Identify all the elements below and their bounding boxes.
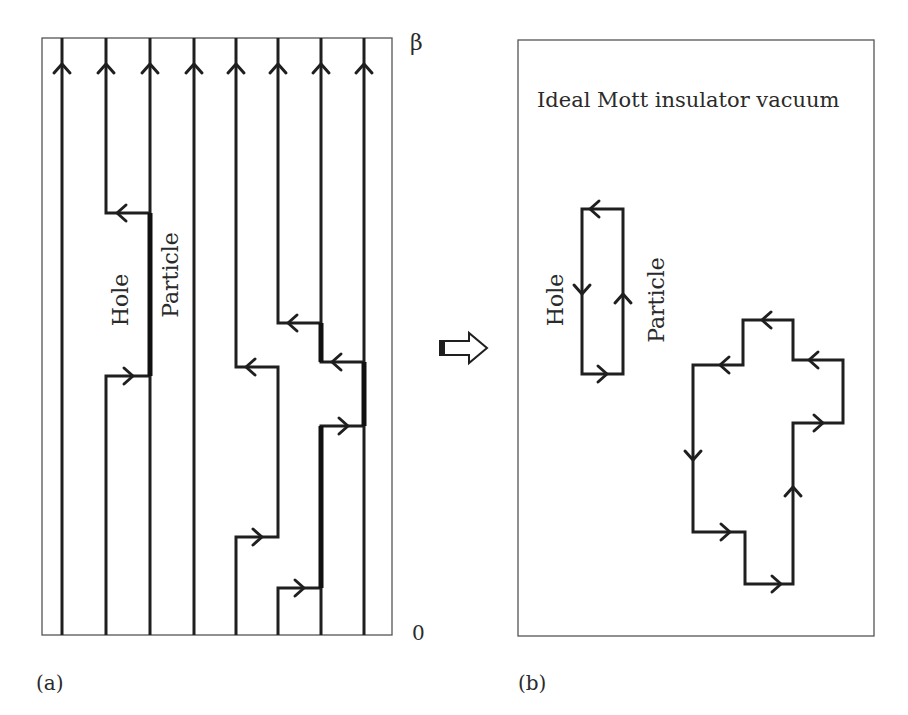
panel-b: Ideal Mott insulator vacuum Hole Particl… xyxy=(518,40,874,695)
worldline-1 xyxy=(54,38,70,635)
panel-b-frame xyxy=(518,40,874,636)
worldline-5 xyxy=(228,38,278,635)
worldline-6 xyxy=(270,38,321,635)
small-loop xyxy=(574,201,631,382)
beta-axis-label: β xyxy=(410,30,423,55)
worldline-7 xyxy=(313,38,364,635)
worldline-2 xyxy=(98,38,150,635)
worldline-3 xyxy=(142,38,158,635)
panel-a: Hole Particle β 0 (a) xyxy=(36,30,425,695)
panel-b-caption: (b) xyxy=(518,671,546,695)
transition-arrow-icon xyxy=(440,333,487,363)
hole-label-a: Hole xyxy=(108,274,133,327)
panel-a-frame xyxy=(42,38,392,635)
panel-b-title: Ideal Mott insulator vacuum xyxy=(537,88,840,112)
particle-label-a: Particle xyxy=(158,232,183,318)
worldline-4 xyxy=(186,38,202,635)
worldline-8 xyxy=(356,38,372,635)
worldline-diagram: Hole Particle β 0 (a) Ideal Mott insulat… xyxy=(0,0,908,715)
panel-a-caption: (a) xyxy=(36,671,64,695)
zero-axis-label: 0 xyxy=(412,621,425,645)
hole-label-b: Hole xyxy=(543,274,568,327)
large-loop xyxy=(685,312,843,592)
particle-label-b: Particle xyxy=(644,257,669,343)
